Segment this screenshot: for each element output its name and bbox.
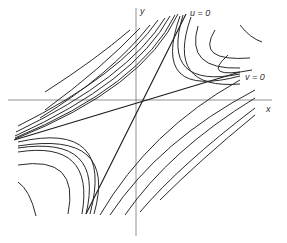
x-axis-label: x	[265, 104, 271, 114]
separatrix-v0	[14, 72, 240, 140]
phase-portrait-figure: x y u = 0 v = 0	[0, 0, 287, 243]
y-axis-label: y	[139, 6, 145, 16]
trajectories-lower-left	[18, 138, 99, 216]
separatrix-u0-label: u = 0	[190, 8, 210, 18]
separatrix-v0-label: v = 0	[245, 72, 265, 82]
trajectories-upper-left	[15, 14, 178, 139]
axes: x y	[8, 6, 272, 236]
